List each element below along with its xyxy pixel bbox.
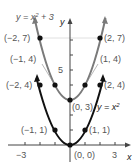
point-1-4 (82, 82, 87, 87)
label-m2-4: (−2, 4) (6, 80, 32, 90)
point-2-4 (97, 82, 102, 87)
point-0-0 (67, 142, 72, 147)
label-1-1: (1, 1) (89, 125, 110, 135)
point-1-1 (82, 127, 87, 132)
curve-label-top: y = x2 + 3 (15, 12, 54, 22)
label-2-4: (2, 4) (104, 80, 125, 90)
y-axis-arrow-icon (68, 18, 73, 24)
label-m2-7: (−2, 7) (4, 33, 30, 43)
label-0-0: (0, 0) (74, 150, 95, 160)
parabola-chart: y = x2 + 3 y x (−2, 7) (2, 7) (−1, 4) (1… (0, 0, 135, 164)
label-1-4: (1, 4) (100, 54, 121, 64)
label-2-7: (2, 7) (104, 33, 125, 43)
tick-label-neg3: −3 (16, 150, 26, 160)
point-m1-1 (52, 127, 57, 132)
label-m1-1: (−1, 1) (21, 125, 47, 135)
label-0-3: (0, 3) (72, 102, 93, 112)
x-axis-arrow-icon (125, 143, 131, 148)
curve-label-bottom: y = x2 (96, 102, 120, 112)
point-m1-4 (52, 82, 57, 87)
arrow-icon (102, 16, 108, 24)
y-axis (68, 18, 74, 162)
label-m1-4: (−1, 4) (10, 54, 36, 64)
point-m2-4 (37, 82, 42, 87)
point-2-7 (97, 35, 102, 40)
x-axis-label: x (126, 152, 132, 162)
tick-label-3: 3 (112, 150, 117, 160)
y-axis-label: y (59, 17, 65, 27)
tick-label-5: 5 (58, 65, 63, 75)
arrow-icon (34, 74, 40, 82)
point-m2-7 (37, 35, 42, 40)
